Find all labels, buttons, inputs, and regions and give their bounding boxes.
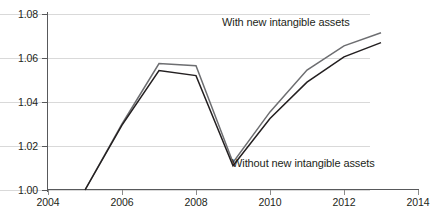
series-layer: [0, 0, 433, 222]
line-chart: 1.08 1.06 1.04 1.02 1.00 2004 2006 2008 …: [0, 0, 433, 222]
annotation-without-new-intangible-assets: Without new intangible assets: [232, 157, 375, 169]
annotation-with-new-intangible-assets: With new intangible assets: [222, 16, 350, 28]
